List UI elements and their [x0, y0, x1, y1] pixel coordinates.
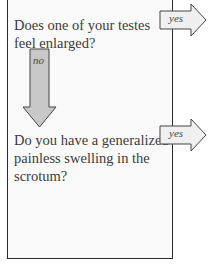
yes-arrow-1-icon	[159, 3, 208, 37]
yes-arrow-2-icon	[159, 118, 208, 152]
question-1-text: Does one of your testes feel enlarged?	[14, 16, 164, 52]
yes-label-1: yes	[169, 12, 183, 24]
no-label: no	[33, 54, 44, 66]
yes-label-2: yes	[169, 127, 183, 139]
question-2-text: Do you have a generalized painless swell…	[14, 131, 169, 185]
